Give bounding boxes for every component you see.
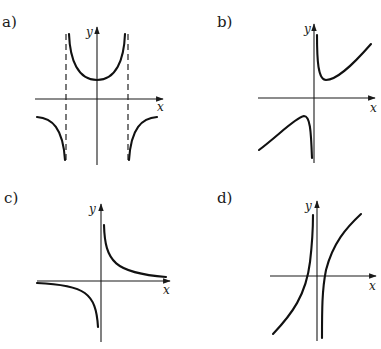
x-axis-label: x [370, 101, 377, 115]
curve-left-branch [37, 117, 65, 160]
panel-a: a) x y [2, 13, 164, 165]
panel-label-b: b) [217, 13, 232, 31]
panel-label-d: d) [217, 189, 232, 207]
function-graphs-diagram: a) x y b) x y c) x y d) x y [0, 0, 381, 349]
y-axis-label: y [85, 25, 93, 39]
y-axis-label: y [304, 199, 312, 213]
curve-quadrant-3-branch [37, 283, 98, 327]
curve-left-branch [259, 116, 312, 158]
panel-d: d) x y [217, 189, 376, 341]
panel-b: b) x y [217, 13, 377, 163]
curve-quadrant-1-branch [104, 225, 166, 277]
curve-right-branch [129, 117, 157, 160]
panel-c: c) x y [4, 189, 170, 342]
x-axis-label: x [157, 100, 164, 114]
x-axis-label: x [163, 283, 170, 297]
panel-label-a: a) [2, 13, 17, 31]
y-axis-label: y [303, 22, 311, 36]
curve-left-branch [273, 215, 313, 334]
x-axis-label: x [369, 279, 376, 293]
y-axis-label: y [88, 202, 96, 216]
panel-label-c: c) [4, 189, 18, 207]
curve-right-branch [317, 35, 371, 80]
